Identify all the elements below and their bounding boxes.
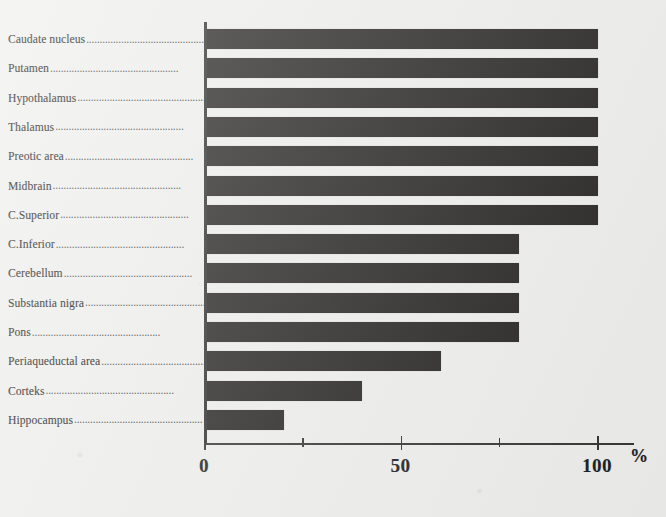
category-label: Midbrain (8, 180, 52, 192)
leader-dots: ........................................… (53, 180, 204, 191)
x-axis-tick-label: 100 (582, 455, 612, 477)
category-label: Thalamus (8, 121, 54, 133)
bar (205, 234, 519, 254)
category-label-row: Caudate nucleus.........................… (8, 29, 204, 49)
bar (205, 293, 519, 313)
bar (205, 146, 598, 166)
category-label: Periaqueductal area (8, 355, 100, 367)
bar (205, 351, 441, 371)
leader-dots: ........................................… (56, 239, 204, 250)
bar (205, 176, 598, 196)
leader-dots: ........................................… (86, 34, 204, 45)
category-label-row: Hypothalamus............................… (8, 88, 204, 108)
x-axis-tick-label: 0 (199, 455, 209, 477)
category-label: Preotic area (8, 150, 64, 162)
category-label: C.Superior (8, 209, 59, 221)
category-label: Hippocampus (8, 414, 73, 426)
bar-chart: Caudate nucleus.........................… (0, 0, 666, 517)
leader-dots: ........................................… (77, 92, 204, 103)
leader-dots: ........................................… (85, 297, 204, 308)
category-label: Pons (8, 326, 31, 338)
bar (205, 381, 362, 401)
leader-dots: ........................................… (32, 327, 204, 338)
category-label-row: Cerebellum..............................… (8, 263, 204, 283)
x-axis-tick (499, 438, 501, 447)
category-label-row: Corteks.................................… (8, 381, 204, 401)
category-label: C.Inferior (8, 238, 55, 250)
category-label: Substantia nigra (8, 297, 84, 309)
leader-dots: ........................................… (101, 356, 204, 367)
bar (205, 117, 598, 137)
category-label-row: Preotic area............................… (8, 146, 204, 166)
bar (205, 263, 519, 283)
bar (205, 88, 598, 108)
category-label-row: C.Superior..............................… (8, 205, 204, 225)
category-label-row: Periaqueductal area.....................… (8, 351, 204, 371)
leader-dots: ........................................… (45, 385, 204, 396)
bar (205, 58, 598, 78)
category-label-row: Hippocampus.............................… (8, 410, 204, 430)
leader-dots: ........................................… (74, 414, 204, 425)
plot-area (204, 22, 604, 443)
category-label: Hypothalamus (8, 92, 76, 104)
category-label-row: Midbrain................................… (8, 176, 204, 196)
x-axis-tick (597, 436, 599, 450)
percent-unit-label: % (630, 446, 648, 467)
leader-dots: ........................................… (65, 151, 204, 162)
category-label: Caudate nucleus (8, 33, 85, 45)
category-label-row: C.Inferior..............................… (8, 234, 204, 254)
category-label: Putamen (8, 62, 49, 74)
category-label: Cerebellum (8, 267, 63, 279)
x-axis-tick (302, 438, 304, 447)
bar (205, 29, 598, 49)
x-axis-tick (401, 436, 403, 450)
category-axis-labels: Caudate nucleus.........................… (8, 22, 204, 443)
x-axis-tick-label: 50 (391, 455, 411, 477)
y-axis-line (204, 22, 207, 443)
bar (205, 322, 519, 342)
category-label-row: Pons....................................… (8, 322, 204, 342)
leader-dots: ........................................… (50, 63, 204, 74)
category-label-row: Substantia nigra........................… (8, 293, 204, 313)
x-axis-line (204, 443, 634, 445)
category-label-row: Putamen.................................… (8, 58, 204, 78)
category-label-row: Thalamus................................… (8, 117, 204, 137)
bar (205, 205, 598, 225)
bar (205, 410, 284, 430)
leader-dots: ........................................… (60, 209, 204, 220)
leader-dots: ........................................… (64, 268, 204, 279)
category-label: Corteks (8, 385, 44, 397)
leader-dots: ........................................… (55, 121, 204, 132)
